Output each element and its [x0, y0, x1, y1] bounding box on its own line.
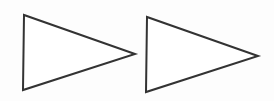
triangle-right: [146, 17, 258, 92]
diagram-canvas: [0, 0, 274, 101]
triangle-left: [23, 15, 135, 90]
